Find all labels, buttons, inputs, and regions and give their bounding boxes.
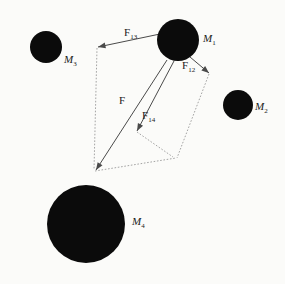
mass-label-M4-subscript: 4 [141,222,145,230]
mass-circle-M3 [30,31,62,63]
arrowhead-F13 [98,43,106,49]
construction-line-inner-left [137,132,173,157]
mass-circle-M1 [157,19,199,61]
mass-label-M3-text: M [64,53,73,65]
construction-line-bottom-side [95,158,176,171]
force-diagram: M1M2M3M4F13F12F14F [0,0,285,284]
mass-label-M1-subscript: 1 [212,39,216,47]
force-label-F12: F12 [182,60,195,71]
force-label-F13: F13 [124,27,137,38]
force-vector-F [96,60,167,170]
mass-label-M1: M1 [203,33,216,44]
mass-label-M1-text: M [203,32,212,44]
force-label-F-text: F [119,94,125,106]
mass-circle-M4 [47,185,125,263]
mass-label-M4-text: M [132,215,141,227]
mass-label-M2: M2 [255,101,268,112]
mass-label-M4: M4 [132,216,145,227]
force-label-F13-subscript: 13 [130,33,137,41]
force-label-F14: F14 [142,110,155,121]
diagram-canvas [0,0,285,284]
construction-line-left-side [94,48,97,170]
force-label-F12-subscript: 12 [188,66,195,74]
arrowhead-F [96,162,103,170]
mass-label-M3: M3 [64,54,77,65]
mass-circle-M2 [223,90,253,120]
arrowhead-F14 [137,123,143,131]
mass-label-M3-subscript: 3 [73,60,77,68]
force-label-F14-subscript: 14 [148,116,155,124]
force-label-F: F [119,95,125,106]
construction-line-right-side [177,74,209,158]
mass-label-M2-text: M [255,100,264,112]
mass-label-M2-subscript: 2 [264,107,268,115]
